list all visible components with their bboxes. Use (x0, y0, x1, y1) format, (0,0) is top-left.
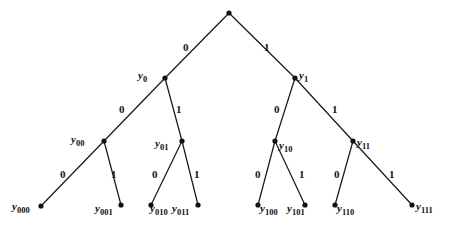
node-label: y101 (287, 203, 305, 214)
node-label: y0 (138, 70, 147, 81)
tree-node-dot[interactable] (292, 75, 297, 80)
edge-label: 1 (332, 104, 338, 115)
edge-label: 1 (299, 169, 305, 180)
node-label: y01 (155, 138, 168, 149)
node-label-subscript: 11 (362, 141, 370, 151)
tree-node-dot[interactable] (101, 138, 106, 143)
tree-node-dot[interactable] (226, 10, 231, 15)
node-label-subscript: 000 (17, 205, 30, 215)
edge-label: 0 (274, 104, 280, 115)
edge-label: 1 (194, 169, 200, 180)
tree-node-dot[interactable] (38, 203, 43, 208)
tree-edge (104, 78, 165, 141)
node-label-subscript: 101 (292, 207, 305, 217)
edge-label: 0 (255, 169, 261, 180)
edge-label: 1 (111, 169, 117, 180)
node-label: y110 (337, 203, 354, 214)
node-label-subscript: 111 (421, 205, 433, 215)
node-label: y100 (260, 203, 278, 214)
edge-label: 0 (60, 169, 66, 180)
node-label: y011 (172, 203, 189, 214)
nodes-group (38, 10, 414, 208)
tree-edge (295, 78, 353, 141)
tree-node-dot[interactable] (272, 138, 277, 143)
tree-canvas (0, 0, 452, 233)
binary-tree-figure: 01010101010101 y0y1y00y01y10y11y000y001y… (0, 0, 452, 233)
tree-node-dot[interactable] (195, 202, 200, 207)
tree-node-dot[interactable] (118, 202, 123, 207)
edge-label: 1 (389, 169, 395, 180)
node-label-subscript: 011 (177, 207, 189, 217)
edges-group (41, 13, 412, 206)
tree-node-dot[interactable] (350, 138, 355, 143)
node-label-subscript: 0 (143, 74, 147, 84)
tree-edge (229, 13, 295, 78)
node-label: y001 (95, 203, 113, 214)
tree-node-dot[interactable] (409, 202, 414, 207)
tree-node-dot[interactable] (162, 75, 167, 80)
node-label: y1 (299, 70, 308, 81)
edge-label: 0 (119, 104, 125, 115)
node-label-subscript: 01 (160, 142, 169, 152)
node-label: y11 (357, 137, 370, 148)
edge-label: 0 (334, 169, 340, 180)
tree-node-dot[interactable] (179, 138, 184, 143)
node-label: y010 (150, 203, 168, 214)
node-label: y000 (12, 201, 30, 212)
node-label-subscript: 100 (265, 207, 278, 217)
node-label-subscript: 10 (284, 144, 293, 154)
node-label-subscript: 00 (76, 138, 85, 148)
edge-label: 1 (264, 42, 270, 53)
node-label-subscript: 001 (100, 207, 113, 217)
node-label-subscript: 1 (304, 74, 308, 84)
tree-edge (165, 13, 229, 78)
edge-label: 0 (183, 42, 189, 53)
node-label: y00 (71, 134, 84, 145)
node-label-subscript: 010 (155, 207, 168, 217)
tree-edge (41, 141, 104, 206)
node-label: y111 (416, 201, 433, 212)
node-label-subscript: 110 (342, 207, 354, 217)
edge-label: 0 (152, 169, 158, 180)
node-label: y10 (279, 140, 292, 151)
edge-label: 1 (176, 104, 182, 115)
